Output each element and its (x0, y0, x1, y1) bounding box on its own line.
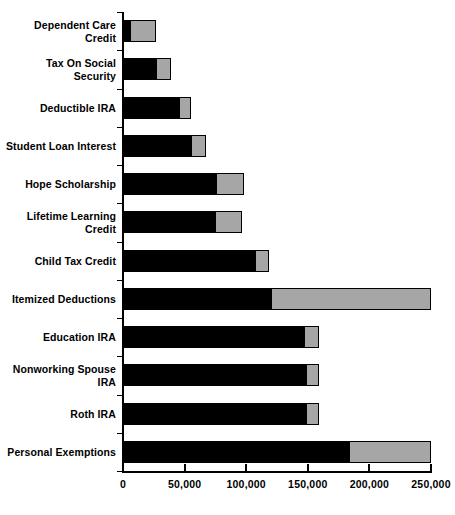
category-label-nonworking-spouse-ira: Nonworking Spouse IRA (4, 363, 116, 388)
bar-segment-secondary (180, 98, 190, 118)
bar-segment-secondary (272, 289, 430, 309)
bar-lifetime-learning-credit (122, 211, 242, 233)
bar-personal-exemptions (122, 441, 431, 463)
category-label-deductible-ira: Deductible IRA (4, 101, 116, 114)
value-axis-tick-label-1: 50,000 (168, 478, 201, 490)
value-axis-tick-label-4: 200,000 (350, 478, 389, 490)
bar-itemized-deductions (122, 288, 431, 310)
bar-segment-primary (123, 289, 272, 309)
bar-roth-ira (122, 403, 319, 425)
bar-child-tax-credit (122, 250, 269, 272)
category-label-hope-scholarship: Hope Scholarship (4, 178, 116, 191)
value-axis-tick (368, 464, 370, 472)
category-axis-tick (117, 50, 123, 51)
category-label-personal-exemptions: Personal Exemptions (4, 446, 116, 459)
bar-segment-primary (123, 442, 350, 462)
category-axis-tick (117, 203, 123, 204)
bar-segment-secondary (350, 442, 430, 462)
bar-segment-secondary (157, 59, 170, 79)
bar-segment-secondary (256, 251, 268, 271)
bar-segment-primary (123, 136, 192, 156)
category-axis-tick (117, 318, 123, 319)
bar-student-loan-interest (122, 135, 206, 157)
category-axis-tick (117, 242, 123, 243)
category-axis-tick (117, 471, 123, 472)
bar-deductible-ira (122, 97, 191, 119)
value-axis-tick (430, 464, 432, 472)
value-axis-tick (245, 464, 247, 472)
value-axis-tick-label-0: 0 (120, 478, 126, 490)
category-axis-tick (117, 165, 123, 166)
category-axis-tick (117, 12, 123, 13)
bar-segment-secondary (192, 136, 205, 156)
bar-segment-secondary (131, 21, 155, 41)
bar-segment-secondary (217, 174, 243, 194)
category-label-tax-on-social-security: Tax On Social Security (4, 57, 116, 82)
bar-segment-primary (123, 212, 216, 232)
category-label-dependent-care-credit: Dependent Care Credit (4, 19, 116, 44)
category-label-itemized-deductions: Itemized Deductions (4, 293, 116, 306)
category-axis-tick (117, 89, 123, 90)
category-axis-tick (117, 356, 123, 357)
value-axis-tick-label-2: 100,000 (227, 478, 266, 490)
category-label-student-loan-interest: Student Loan Interest (4, 140, 116, 153)
category-axis-tick (117, 395, 123, 396)
bar-segment-primary (123, 59, 157, 79)
value-axis-tick-label-3: 150,000 (288, 478, 327, 490)
bar-segment-primary (123, 404, 307, 424)
bar-segment-secondary (216, 212, 241, 232)
bar-segment-secondary (305, 327, 317, 347)
value-axis-tick (184, 464, 186, 472)
category-label-education-ira: Education IRA (4, 331, 116, 344)
category-label-lifetime-learning-credit: Lifetime Learning Credit (4, 210, 116, 235)
bar-segment-secondary (307, 365, 318, 385)
bar-tax-on-social-security (122, 58, 171, 80)
bar-segment-primary (123, 327, 305, 347)
category-axis-tick (117, 280, 123, 281)
value-axis-tick (307, 464, 309, 472)
value-axis-tick-label-5: 250,000 (411, 478, 450, 490)
category-label-child-tax-credit: Child Tax Credit (4, 254, 116, 267)
category-axis-tick (117, 127, 123, 128)
bar-segment-primary (123, 21, 131, 41)
category-axis-tick (117, 433, 123, 434)
bar-education-ira (122, 326, 319, 348)
bar-segment-secondary (307, 404, 318, 424)
category-label-roth-ira: Roth IRA (4, 407, 116, 420)
bar-chart: 050,000100,000150,000200,000250,000 Depe… (0, 0, 455, 515)
bar-dependent-care-credit (122, 20, 156, 42)
bar-segment-primary (123, 98, 180, 118)
bar-segment-primary (123, 251, 256, 271)
bar-segment-primary (123, 174, 217, 194)
bar-hope-scholarship (122, 173, 244, 195)
value-axis-line (122, 471, 432, 473)
bar-nonworking-spouse-ira (122, 364, 319, 386)
bar-segment-primary (123, 365, 307, 385)
